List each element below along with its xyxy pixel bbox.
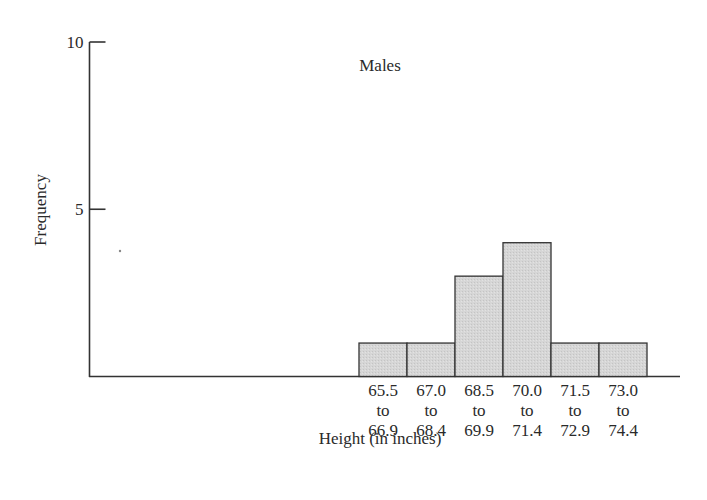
x-tick-label: to: [568, 401, 581, 420]
histogram-bar: [551, 343, 599, 376]
x-tick-label: to: [520, 401, 533, 420]
x-tick-label: to: [616, 401, 629, 420]
x-tick-label: 72.9: [560, 421, 590, 440]
x-tick-label: 69.9: [464, 421, 494, 440]
y-tick-label: 5: [75, 200, 84, 219]
histogram-bar: [599, 343, 647, 376]
x-tick-label: 71.4: [512, 421, 542, 440]
chart-title: Males: [359, 56, 401, 75]
x-tick-label: 67.0: [416, 381, 446, 400]
histogram-bar: [455, 276, 503, 376]
y-tick-label: 10: [67, 33, 84, 52]
histogram-bar: [407, 343, 455, 376]
x-tick-label: 70.0: [512, 381, 542, 400]
histogram-bar: [503, 243, 551, 377]
x-tick-label: 68.5: [464, 381, 494, 400]
x-tick-label: to: [472, 401, 485, 420]
y-ticks: 510: [67, 33, 106, 219]
x-tick-label: to: [424, 401, 437, 420]
x-tick-label: 73.0: [608, 381, 638, 400]
x-tick-label: 65.5: [368, 381, 398, 400]
histogram-bar: [359, 343, 407, 376]
x-tick-label: 71.5: [560, 381, 590, 400]
histogram-chart: 510 65.5to66.967.0to68.468.5to69.970.0to…: [0, 0, 707, 500]
x-tick-label: to: [376, 401, 389, 420]
bars: [359, 243, 647, 377]
x-tick-label: 74.4: [608, 421, 638, 440]
y-axis-label: Frequency: [31, 174, 50, 246]
scan-speck: [119, 250, 121, 252]
x-axis-label: Height (in inches): [319, 429, 442, 448]
